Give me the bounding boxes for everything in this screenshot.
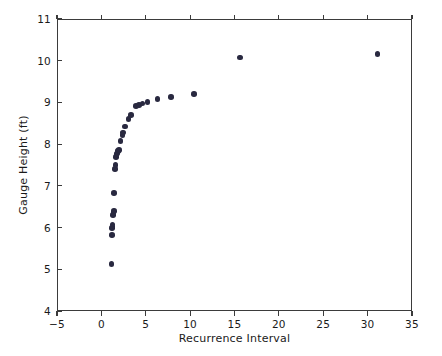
x-axis-tick bbox=[234, 311, 235, 316]
x-axis-tick bbox=[278, 311, 279, 316]
x-axis-tick bbox=[101, 311, 102, 316]
x-axis-tick-label: 10 bbox=[183, 318, 197, 330]
x-axis-label: Recurrence Interval bbox=[57, 332, 412, 345]
x-axis-tick-top bbox=[278, 15, 279, 20]
plot-area bbox=[57, 19, 412, 311]
x-axis-tick-top bbox=[411, 15, 412, 20]
data-point bbox=[111, 208, 117, 214]
x-axis-tick-top bbox=[190, 15, 191, 20]
y-axis-tick bbox=[57, 102, 62, 103]
y-axis-tick bbox=[57, 310, 62, 311]
x-axis-tick bbox=[323, 311, 324, 316]
x-axis-tick-top bbox=[234, 15, 235, 20]
scatter-plot-figure: −5051015202530354567891011 Recurrence In… bbox=[0, 0, 442, 356]
y-axis-label: Gauge Height (ft) bbox=[17, 19, 33, 311]
y-axis-tick bbox=[57, 60, 62, 61]
y-axis-tick bbox=[57, 227, 62, 228]
x-axis-tick bbox=[190, 311, 191, 316]
y-axis-tick bbox=[57, 269, 62, 270]
x-axis-tick-top bbox=[367, 15, 368, 20]
data-point bbox=[116, 147, 122, 153]
data-point bbox=[118, 138, 124, 144]
data-point bbox=[145, 99, 151, 105]
data-point bbox=[128, 112, 134, 118]
x-axis-tick-label: 30 bbox=[361, 318, 375, 330]
data-point bbox=[122, 124, 128, 130]
data-points-layer bbox=[58, 20, 411, 310]
x-axis-tick-top bbox=[323, 15, 324, 20]
x-axis-tick-label: 25 bbox=[316, 318, 330, 330]
x-axis-tick bbox=[145, 311, 146, 316]
x-axis-tick-top bbox=[101, 15, 102, 20]
x-axis-tick bbox=[411, 311, 412, 316]
data-point bbox=[237, 55, 243, 61]
x-axis-tick-label: 5 bbox=[142, 318, 149, 330]
x-axis-tick bbox=[56, 311, 57, 316]
y-axis-tick bbox=[57, 185, 62, 186]
data-point bbox=[111, 190, 117, 196]
data-point bbox=[191, 91, 197, 97]
data-point bbox=[375, 51, 381, 57]
x-axis-tick-top bbox=[145, 15, 146, 20]
data-point bbox=[168, 94, 174, 100]
x-axis-tick bbox=[367, 311, 368, 316]
y-axis-tick bbox=[57, 144, 62, 145]
x-axis-tick-label: −5 bbox=[49, 318, 65, 330]
data-point bbox=[109, 261, 115, 267]
x-axis-tick-label: 20 bbox=[272, 318, 286, 330]
data-point bbox=[120, 130, 126, 136]
x-axis-tick-label: 0 bbox=[98, 318, 105, 330]
x-axis-tick-label: 15 bbox=[228, 318, 242, 330]
data-point bbox=[109, 232, 115, 238]
data-point bbox=[155, 96, 161, 102]
y-axis-tick bbox=[57, 18, 62, 19]
x-axis-tick-label: 35 bbox=[405, 318, 419, 330]
